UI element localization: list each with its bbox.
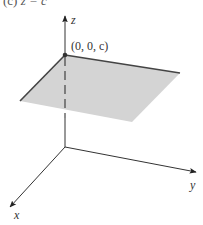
diagram-canvas: z y x (0, 0, c) (0, 0, 203, 225)
caption-equation: z = c (21, 0, 47, 8)
point-label: (0, 0, c) (71, 39, 108, 53)
y-axis-label: y (189, 178, 196, 192)
figure-caption: (c) z = c (3, 0, 47, 9)
x-axis-label: x (13, 208, 20, 222)
plane-z-equals-c-diagram: (c) z = c z y x (0, 0, c) (0, 0, 203, 225)
point-marker (63, 53, 68, 58)
caption-prefix: (c) (3, 0, 17, 8)
y-axis (65, 147, 196, 172)
z-axis-label: z (70, 13, 76, 27)
x-axis (10, 147, 65, 207)
plane-z-equals-c (20, 55, 180, 122)
